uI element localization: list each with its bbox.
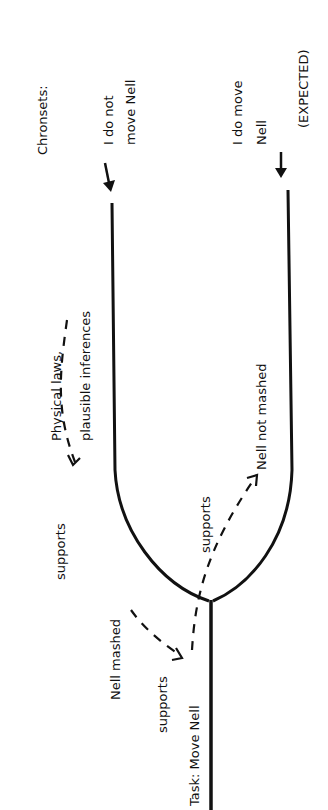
edge-label-supports-1: supports — [53, 523, 68, 580]
arrow-down-icon — [103, 180, 115, 192]
branch-move — [213, 190, 292, 601]
edge-label-supports-2: supports — [155, 676, 170, 733]
chronset-label-move-line2: Nell — [254, 120, 269, 145]
branch-not-move — [112, 203, 209, 601]
chronset-label-not-move-line2: move Nell — [123, 80, 138, 145]
edge-label-supports-3: supports — [198, 496, 213, 553]
fact-not-mashed: Nell not mashed — [254, 364, 269, 470]
fact-physical-line2: plausible inferences — [78, 311, 93, 441]
fact-mashed: Nell mashed — [108, 619, 123, 700]
chronset-label-move-line1: I do move — [230, 80, 245, 145]
fact-physical-line1: Physical laws, — [49, 351, 64, 441]
chronset-label-not-move-line1: I do not — [101, 95, 116, 145]
arrow-icon — [247, 475, 257, 486]
expected-note: (EXPECTED) — [296, 49, 311, 128]
arrow-down-icon — [275, 168, 287, 178]
task-label: Task: Move Nell — [187, 705, 202, 806]
chronsets-header: Chronsets: — [35, 85, 50, 155]
